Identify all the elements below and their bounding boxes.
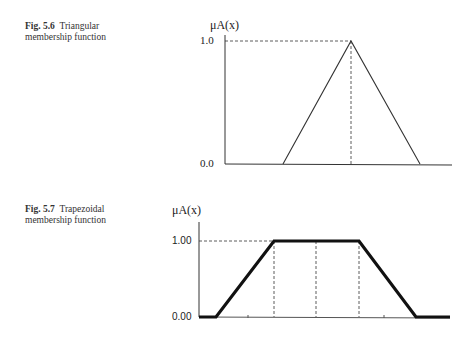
figures-plot: [0, 0, 476, 338]
fig-5-7-trapezoid: [199, 241, 450, 317]
fig-5-6-plot: [225, 35, 452, 165]
fig-5-6-x-axis: [225, 164, 452, 165]
fig-5-6-triangle: [283, 41, 420, 164]
fig-5-7-x-axis: [199, 317, 450, 318]
fig-5-7-plot: [199, 222, 450, 318]
